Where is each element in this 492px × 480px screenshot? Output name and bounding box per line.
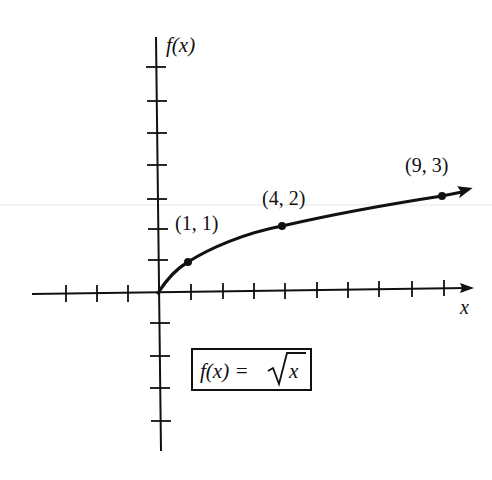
point-label-1-1: (1, 1) [175, 212, 218, 235]
x-axis-label: x [459, 296, 469, 318]
point-4-2 [278, 222, 286, 230]
point-label-9-3: (9, 3) [405, 154, 448, 177]
formula-box: f(x) = x [192, 349, 311, 390]
point-label-4-2: (4, 2) [262, 187, 305, 210]
y-axis-label: f(x) [166, 33, 195, 57]
sqrt-curve [158, 192, 462, 293]
sqrt-function-graph: x f(x) (1, 1) (4, 2) (9, 3) f(x) [0, 0, 492, 480]
formula-radicand: x [288, 359, 299, 383]
point-9-3 [438, 192, 446, 200]
point-1-1 [184, 258, 192, 266]
x-axis-arrow-icon [460, 283, 474, 293]
x-axis: x [32, 280, 474, 318]
y-axis: f(x) [146, 33, 195, 451]
formula-lhs: f(x) = [200, 359, 249, 383]
